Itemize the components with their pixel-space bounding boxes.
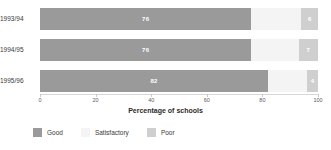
legend-label-good: Good bbox=[47, 129, 63, 136]
bar-row-1994-95: 76 7 bbox=[40, 39, 318, 61]
x-axis-title: Percentage of schools bbox=[0, 107, 331, 114]
bar-segment-poor[interactable]: 4 bbox=[307, 70, 318, 92]
bar-value-label: 76 bbox=[142, 47, 149, 53]
x-axis-line bbox=[40, 94, 318, 95]
bar-segment-poor[interactable]: 7 bbox=[299, 39, 318, 61]
bar-value-label: 7 bbox=[306, 47, 310, 53]
bar-segment-good[interactable]: 76 bbox=[40, 39, 251, 61]
legend: Good Satisfactory Poor bbox=[33, 128, 193, 137]
x-axis-tick-label: 80 bbox=[259, 97, 265, 103]
bar-value-label: 6 bbox=[308, 16, 312, 22]
bar-value-label: 82 bbox=[150, 78, 157, 84]
bar-segment-satisfactory[interactable] bbox=[268, 70, 307, 92]
x-axis-tick-label: 20 bbox=[93, 97, 99, 103]
category-label-1993-94: 1993/94 bbox=[0, 8, 36, 30]
bar-row-1995-96: 82 4 bbox=[40, 70, 318, 92]
legend-item-poor[interactable]: Poor bbox=[147, 128, 175, 137]
plot-area: 76 6 76 7 82 bbox=[40, 6, 318, 94]
legend-swatch-satisfactory-icon bbox=[81, 128, 90, 137]
legend-label-poor: Poor bbox=[161, 129, 175, 136]
bar-segment-satisfactory[interactable] bbox=[251, 39, 298, 61]
x-axis-tick-label: 60 bbox=[204, 97, 210, 103]
bar-segment-poor[interactable]: 6 bbox=[301, 8, 318, 30]
x-axis-tick-label: 40 bbox=[148, 97, 154, 103]
chart-container: 1993/94 1994/95 1995/96 76 6 76 7 bbox=[0, 0, 331, 150]
legend-item-good[interactable]: Good bbox=[33, 128, 63, 137]
category-label-1995-96: 1995/96 bbox=[0, 70, 36, 92]
x-axis-tick-label: 0 bbox=[38, 97, 41, 103]
bar-segment-good[interactable]: 82 bbox=[40, 70, 268, 92]
bar-value-label: 76 bbox=[142, 16, 149, 22]
bar-segment-good[interactable]: 76 bbox=[40, 8, 251, 30]
legend-swatch-good-icon bbox=[33, 128, 42, 137]
legend-item-satisfactory[interactable]: Satisfactory bbox=[81, 128, 129, 137]
bar-row-1993-94: 76 6 bbox=[40, 8, 318, 30]
x-axis-tick-label: 100 bbox=[313, 97, 322, 103]
category-label-1994-95: 1994/95 bbox=[0, 39, 36, 61]
bar-segment-satisfactory[interactable] bbox=[251, 8, 301, 30]
legend-label-satisfactory: Satisfactory bbox=[95, 129, 129, 136]
bar-value-label: 4 bbox=[311, 78, 315, 84]
legend-swatch-poor-icon bbox=[147, 128, 156, 137]
